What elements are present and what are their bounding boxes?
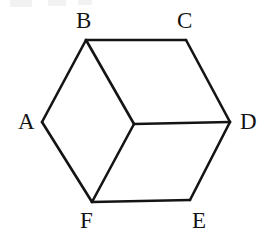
edge-FA bbox=[42, 122, 92, 202]
vertex-label-C: C bbox=[177, 9, 192, 32]
edge-EF bbox=[92, 200, 190, 202]
vertex-label-E: E bbox=[192, 209, 206, 232]
vertex-label-D: D bbox=[240, 110, 257, 133]
edge-GF bbox=[92, 124, 134, 202]
hexagon-cube-drawing bbox=[0, 0, 280, 240]
edge-GD bbox=[134, 122, 230, 124]
figure-canvas: A B C D E F bbox=[0, 0, 280, 240]
edge-AB bbox=[42, 40, 86, 122]
vertex-label-B: B bbox=[76, 9, 91, 32]
vertex-label-F: F bbox=[80, 209, 93, 232]
vertex-label-A: A bbox=[18, 110, 35, 133]
edge-DE bbox=[190, 122, 230, 200]
edge-CD bbox=[186, 40, 230, 122]
edge-BG bbox=[86, 40, 134, 124]
